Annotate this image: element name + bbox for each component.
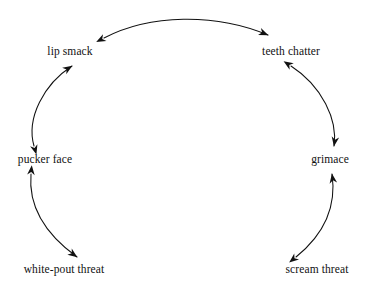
edge-scream-threat-grimace	[296, 174, 333, 257]
node-lip-smack: lip smack	[47, 46, 92, 58]
edge-lip-smack-teeth-chatter	[104, 19, 268, 38]
node-teeth-chatter: teeth chatter	[262, 46, 320, 58]
edge-teeth-chatter-grimace	[291, 66, 335, 146]
edge-layer	[0, 0, 368, 290]
node-white-pout-threat: white-pout threat	[24, 264, 105, 276]
node-pucker-face: pucker face	[18, 154, 72, 166]
cycle-diagram: lip smack teeth chatter pucker face grim…	[0, 0, 368, 290]
edge-white-pout-threat-pucker-face	[31, 174, 77, 257]
node-scream-threat: scream threat	[286, 264, 349, 276]
node-grimace: grimace	[311, 154, 349, 166]
edge-pucker-face-lip-smack	[32, 66, 72, 146]
